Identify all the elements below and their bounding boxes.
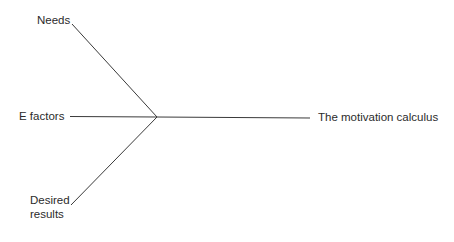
- motivation-calculus-diagram: Needs E factors Desired results The moti…: [0, 0, 454, 242]
- output-connector-line: [157, 117, 310, 118]
- e-factors-label: E factors: [19, 109, 64, 123]
- desired-results-label-line-2: results: [30, 207, 90, 221]
- motivation-calculus-label: The motivation calculus: [318, 110, 438, 124]
- desired-results-connector-line: [71, 117, 157, 205]
- needs-connector-line: [72, 24, 157, 117]
- desired-results-label-line-1: Desired: [30, 193, 90, 207]
- e-factors-connector-line: [70, 117, 157, 118]
- desired-results-label: Desired results: [30, 193, 90, 221]
- needs-label: Needs: [37, 13, 70, 27]
